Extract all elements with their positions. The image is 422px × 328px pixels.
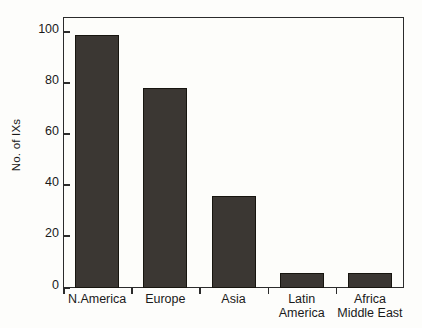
y-tick-label: 60	[45, 125, 59, 138]
y-tick-label: 40	[45, 176, 59, 189]
bar-n-america	[75, 35, 119, 288]
bar-chart: No. of IXs 100 80 60 40 20 0	[0, 0, 422, 328]
bar-slot	[336, 32, 404, 288]
y-tick-label: 80	[45, 74, 59, 87]
y-tick-label: 0	[52, 279, 59, 292]
x-label-asia: Asia	[199, 293, 267, 320]
x-label-n-america: N.America	[63, 293, 131, 320]
x-label-europe: Europe	[131, 293, 199, 320]
bar-africa-middle-east	[348, 273, 392, 288]
bar-latin-america	[280, 273, 324, 288]
bar-asia	[212, 196, 256, 288]
bar-slot	[268, 32, 336, 288]
bar-slot	[63, 32, 131, 288]
y-tick-label: 20	[45, 227, 59, 240]
bar-series	[63, 32, 404, 288]
plot-area	[63, 32, 404, 288]
x-label-latin-america: Latin America	[268, 293, 336, 320]
bar-europe	[143, 88, 187, 288]
x-axis-labels: N.America Europe Asia Latin America Afri…	[63, 293, 404, 320]
x-label-africa-middle-east: Africa Middle East	[336, 293, 404, 320]
bar-slot	[199, 32, 267, 288]
y-tick-label: 100	[38, 23, 59, 36]
bar-slot	[131, 32, 199, 288]
